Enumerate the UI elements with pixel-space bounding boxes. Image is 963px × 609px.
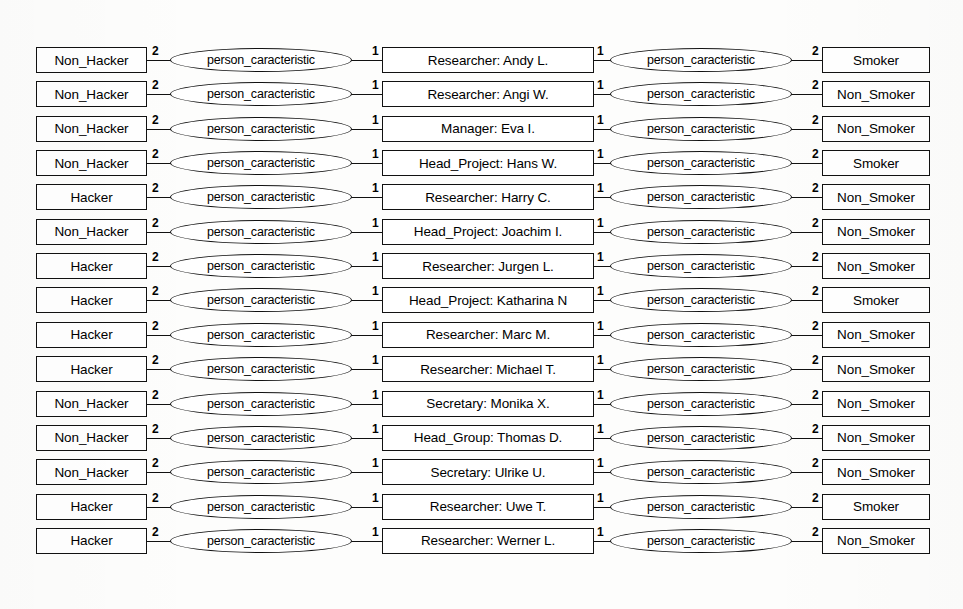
cardinality-right-outer: 2	[812, 182, 819, 194]
cardinality-right-outer: 2	[812, 354, 819, 366]
relationship-ellipse-left[interactable]: person_caracteristic	[170, 82, 352, 106]
relationship-ellipse-right[interactable]: person_caracteristic	[610, 495, 792, 519]
hacker-status-box[interactable]: Hacker	[36, 253, 147, 279]
hacker-status-box[interactable]: Non_Hacker	[36, 391, 147, 417]
relationship-ellipse-right[interactable]: person_caracteristic	[610, 323, 792, 347]
smoker-status-box[interactable]: Smoker	[822, 47, 930, 73]
connector-left-relationship-to-person	[349, 94, 385, 95]
person-box[interactable]: Head_Project: Katharina N	[382, 287, 594, 313]
person-box[interactable]: Secretary: Monika X.	[382, 391, 594, 417]
relationship-ellipse-left[interactable]: person_caracteristic	[170, 185, 352, 209]
smoker-status-box[interactable]: Non_Smoker	[822, 253, 930, 279]
hacker-status-box[interactable]: Non_Hacker	[36, 81, 147, 107]
smoker-status-box[interactable]: Non_Smoker	[822, 459, 930, 485]
hacker-status-box[interactable]: Non_Hacker	[36, 150, 147, 176]
relationship-ellipse-right[interactable]: person_caracteristic	[610, 254, 792, 278]
smoker-status-box[interactable]: Non_Smoker	[822, 528, 930, 554]
smoker-status-box[interactable]: Smoker	[822, 150, 930, 176]
cardinality-left-inner: 1	[372, 182, 379, 194]
cardinality-left-inner: 1	[372, 217, 379, 229]
connector-left-relationship-to-person	[349, 232, 385, 233]
hacker-status-box[interactable]: Non_Hacker	[36, 425, 147, 451]
person-box[interactable]: Researcher: Jurgen L.	[382, 253, 594, 279]
person-box[interactable]: Researcher: Uwe T.	[382, 494, 594, 520]
hacker-status-box[interactable]: Hacker	[36, 322, 147, 348]
relationship-ellipse-left[interactable]: person_caracteristic	[170, 460, 352, 484]
connector-left-relationship-to-person	[349, 541, 385, 542]
cardinality-right-outer: 2	[812, 251, 819, 263]
cardinality-left-outer: 2	[152, 114, 159, 126]
relationship-ellipse-right[interactable]: person_caracteristic	[610, 117, 792, 141]
cardinality-right-inner: 1	[597, 457, 604, 469]
hacker-status-box[interactable]: Hacker	[36, 528, 147, 554]
cardinality-left-outer: 2	[152, 320, 159, 332]
person-box[interactable]: Researcher: Michael T.	[382, 356, 594, 382]
cardinality-left-outer: 2	[152, 423, 159, 435]
relationship-ellipse-left[interactable]: person_caracteristic	[170, 288, 352, 312]
person-box[interactable]: Head_Group: Thomas D.	[382, 425, 594, 451]
hacker-status-box[interactable]: Non_Hacker	[36, 47, 147, 73]
hacker-status-box[interactable]: Non_Hacker	[36, 116, 147, 142]
relationship-ellipse-right[interactable]: person_caracteristic	[610, 426, 792, 450]
person-box[interactable]: Head_Project: Joachim I.	[382, 219, 594, 245]
cardinality-left-inner: 1	[372, 79, 379, 91]
person-box[interactable]: Researcher: Andy L.	[382, 47, 594, 73]
smoker-status-box[interactable]: Non_Smoker	[822, 219, 930, 245]
hacker-status-box[interactable]: Non_Hacker	[36, 219, 147, 245]
cardinality-right-inner: 1	[597, 148, 604, 160]
relationship-ellipse-left[interactable]: person_caracteristic	[170, 357, 352, 381]
smoker-status-box[interactable]: Non_Smoker	[822, 184, 930, 210]
person-box[interactable]: Researcher: Werner L.	[382, 528, 594, 554]
connector-left-relationship-to-person	[349, 438, 385, 439]
relationship-ellipse-right[interactable]: person_caracteristic	[610, 220, 792, 244]
cardinality-right-outer: 2	[812, 45, 819, 57]
person-box[interactable]: Researcher: Angi W.	[382, 81, 594, 107]
relationship-ellipse-right[interactable]: person_caracteristic	[610, 82, 792, 106]
smoker-status-box[interactable]: Non_Smoker	[822, 356, 930, 382]
relationship-ellipse-left[interactable]: person_caracteristic	[170, 392, 352, 416]
smoker-status-box[interactable]: Smoker	[822, 494, 930, 520]
cardinality-right-outer: 2	[812, 526, 819, 538]
hacker-status-box[interactable]: Hacker	[36, 494, 147, 520]
relationship-ellipse-left[interactable]: person_caracteristic	[170, 117, 352, 141]
hacker-status-box[interactable]: Hacker	[36, 287, 147, 313]
person-box[interactable]: Researcher: Marc M.	[382, 322, 594, 348]
relationship-ellipse-left[interactable]: person_caracteristic	[170, 254, 352, 278]
hacker-status-box[interactable]: Hacker	[36, 356, 147, 382]
relationship-ellipse-left[interactable]: person_caracteristic	[170, 529, 352, 553]
smoker-status-box[interactable]: Non_Smoker	[822, 425, 930, 451]
relationship-ellipse-left[interactable]: person_caracteristic	[170, 426, 352, 450]
relationship-ellipse-right[interactable]: person_caracteristic	[610, 460, 792, 484]
cardinality-left-outer: 2	[152, 457, 159, 469]
hacker-status-box[interactable]: Non_Hacker	[36, 459, 147, 485]
connector-right-relationship-to-right-box	[789, 369, 825, 370]
relationship-ellipse-right[interactable]: person_caracteristic	[610, 357, 792, 381]
cardinality-left-outer: 2	[152, 217, 159, 229]
smoker-status-box[interactable]: Non_Smoker	[822, 322, 930, 348]
relationship-ellipse-right[interactable]: person_caracteristic	[610, 392, 792, 416]
cardinality-left-outer: 2	[152, 285, 159, 297]
relationship-ellipse-left[interactable]: person_caracteristic	[170, 495, 352, 519]
relationship-ellipse-left[interactable]: person_caracteristic	[170, 48, 352, 72]
hacker-status-box[interactable]: Hacker	[36, 184, 147, 210]
cardinality-right-outer: 2	[812, 423, 819, 435]
connector-left-relationship-to-person	[349, 369, 385, 370]
person-box[interactable]: Researcher: Harry C.	[382, 184, 594, 210]
relationship-ellipse-left[interactable]: person_caracteristic	[170, 323, 352, 347]
smoker-status-box[interactable]: Non_Smoker	[822, 116, 930, 142]
connector-left-relationship-to-person	[349, 507, 385, 508]
relationship-ellipse-right[interactable]: person_caracteristic	[610, 151, 792, 175]
relationship-ellipse-left[interactable]: person_caracteristic	[170, 220, 352, 244]
relationship-ellipse-right[interactable]: person_caracteristic	[610, 529, 792, 553]
relationship-ellipse-right[interactable]: person_caracteristic	[610, 185, 792, 209]
relationship-ellipse-left[interactable]: person_caracteristic	[170, 151, 352, 175]
person-box[interactable]: Secretary: Ulrike U.	[382, 459, 594, 485]
relationship-ellipse-right[interactable]: person_caracteristic	[610, 288, 792, 312]
relationship-ellipse-right[interactable]: person_caracteristic	[610, 48, 792, 72]
smoker-status-box[interactable]: Non_Smoker	[822, 391, 930, 417]
person-box[interactable]: Manager: Eva I.	[382, 116, 594, 142]
smoker-status-box[interactable]: Non_Smoker	[822, 81, 930, 107]
cardinality-left-outer: 2	[152, 251, 159, 263]
smoker-status-box[interactable]: Smoker	[822, 287, 930, 313]
person-box[interactable]: Head_Project: Hans W.	[382, 150, 594, 176]
